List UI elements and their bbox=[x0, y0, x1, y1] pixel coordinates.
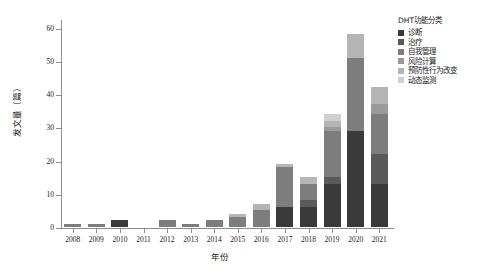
bar-segment bbox=[371, 184, 388, 227]
y-tick-label-wrap: 40 bbox=[26, 91, 54, 99]
chart-page: 0102030405060 20082009201020112012201320… bbox=[0, 0, 497, 275]
legend-item-3[interactable]: 风险计算 bbox=[398, 57, 497, 66]
bar-segment bbox=[276, 207, 293, 227]
x-tick-2017 bbox=[285, 229, 286, 233]
x-tick-2014 bbox=[214, 229, 215, 233]
legend-swatch-icon bbox=[398, 39, 404, 45]
legend-label: 风险计算 bbox=[408, 57, 436, 66]
x-tick-2013 bbox=[191, 229, 192, 233]
x-tick-2008 bbox=[73, 229, 74, 233]
bar-segment bbox=[324, 121, 341, 128]
bar-segment bbox=[347, 58, 364, 131]
bar-segment bbox=[182, 224, 199, 227]
legend-label: 自我管理 bbox=[408, 47, 436, 56]
legend-label: 动态监测 bbox=[408, 76, 436, 85]
legend-swatch-icon bbox=[398, 58, 404, 64]
bar-segment bbox=[324, 131, 341, 178]
legend-label: 治疗 bbox=[408, 38, 422, 47]
bar-2021[interactable] bbox=[371, 87, 388, 227]
legend-swatch-icon bbox=[398, 68, 404, 74]
x-tick-2012 bbox=[167, 229, 168, 233]
bar-2014[interactable] bbox=[206, 220, 223, 227]
legend-title: DHT功能分类 bbox=[398, 14, 497, 25]
bar-segment bbox=[324, 114, 341, 121]
bar-segment bbox=[300, 184, 317, 201]
y-tick-label-wrap: 0 bbox=[26, 224, 54, 232]
x-tick-label: 2021 bbox=[364, 235, 394, 244]
legend-swatch-icon bbox=[398, 30, 404, 36]
bar-2019[interactable] bbox=[324, 114, 341, 227]
bar-2013[interactable] bbox=[182, 224, 199, 227]
bar-segment bbox=[371, 104, 388, 114]
y-tick-0 bbox=[56, 228, 61, 229]
bar-segment bbox=[276, 167, 293, 207]
bar-segment bbox=[229, 214, 246, 217]
x-axis-line bbox=[61, 228, 394, 229]
legend-swatch-icon bbox=[398, 49, 404, 55]
bar-segment bbox=[324, 177, 341, 184]
y-tick-label: 30 bbox=[30, 124, 54, 132]
y-tick-label: 50 bbox=[30, 58, 54, 66]
bar-segment bbox=[253, 210, 270, 227]
y-tick-label-wrap: 30 bbox=[26, 124, 54, 132]
y-tick-label: 60 bbox=[30, 25, 54, 33]
x-tick-2009 bbox=[96, 229, 97, 233]
y-tick-label-wrap: 60 bbox=[26, 25, 54, 33]
bar-segment bbox=[300, 200, 317, 207]
bar-segment bbox=[64, 224, 81, 227]
plot-area bbox=[61, 22, 391, 227]
bar-segment bbox=[253, 204, 270, 211]
bar-segment bbox=[347, 34, 364, 57]
y-tick-label-wrap: 20 bbox=[26, 158, 54, 166]
legend-item-4[interactable]: 预防性行为改变 bbox=[398, 66, 497, 75]
bar-segment bbox=[324, 127, 341, 130]
legend-label: 预防性行为改变 bbox=[408, 66, 457, 75]
bar-segment bbox=[229, 217, 246, 227]
y-tick-label-wrap: 50 bbox=[26, 58, 54, 66]
legend-item-2[interactable]: 自我管理 bbox=[398, 47, 497, 56]
bar-segment bbox=[276, 164, 293, 167]
x-tick-2016 bbox=[261, 229, 262, 233]
y-tick-label-wrap: 10 bbox=[26, 191, 54, 199]
bar-segment bbox=[371, 154, 388, 184]
bar-2020[interactable] bbox=[347, 34, 364, 227]
legend-item-0[interactable]: 诊断 bbox=[398, 28, 497, 37]
bar-segment bbox=[88, 224, 105, 227]
x-tick-2015 bbox=[238, 229, 239, 233]
bar-segment bbox=[324, 184, 341, 227]
x-axis-title: 年份 bbox=[0, 250, 440, 262]
bar-2012[interactable] bbox=[159, 220, 176, 227]
bar-segment bbox=[371, 87, 388, 104]
y-tick-label: 40 bbox=[30, 91, 54, 99]
x-tick-2011 bbox=[144, 229, 145, 233]
bar-segment bbox=[300, 177, 317, 184]
bar-2016[interactable] bbox=[253, 204, 270, 227]
y-tick-label: 20 bbox=[30, 158, 54, 166]
bar-segment bbox=[347, 131, 364, 227]
bar-segment bbox=[159, 220, 176, 227]
legend-item-5[interactable]: 动态监测 bbox=[398, 76, 497, 85]
legend-label: 诊断 bbox=[408, 28, 422, 37]
x-tick-2018 bbox=[309, 229, 310, 233]
bar-2009[interactable] bbox=[88, 224, 105, 227]
bar-segment bbox=[206, 220, 223, 227]
y-axis-title: 发文量（篇） bbox=[10, 50, 22, 170]
legend-swatch-icon bbox=[398, 77, 404, 83]
x-tick-2019 bbox=[332, 229, 333, 233]
x-tick-2020 bbox=[356, 229, 357, 233]
bar-segment bbox=[371, 114, 388, 154]
bar-2015[interactable] bbox=[229, 214, 246, 227]
y-tick-label: 10 bbox=[30, 191, 54, 199]
bar-2010[interactable] bbox=[111, 220, 128, 227]
bar-segment bbox=[111, 220, 128, 227]
x-tick-2021 bbox=[379, 229, 380, 233]
bar-2008[interactable] bbox=[64, 224, 81, 227]
bar-2018[interactable] bbox=[300, 177, 317, 227]
y-tick-label: 0 bbox=[30, 224, 54, 232]
bar-2017[interactable] bbox=[276, 164, 293, 227]
chart-legend: DHT功能分类 诊断治疗自我管理风险计算预防性行为改变动态监测 bbox=[398, 14, 497, 85]
x-tick-2010 bbox=[120, 229, 121, 233]
legend-item-1[interactable]: 治疗 bbox=[398, 38, 497, 47]
bar-segment bbox=[300, 207, 317, 227]
legend-items: 诊断治疗自我管理风险计算预防性行为改变动态监测 bbox=[398, 28, 497, 85]
